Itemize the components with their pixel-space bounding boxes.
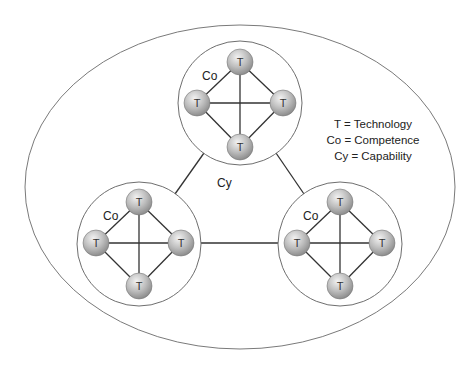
technology-node: T: [284, 230, 310, 256]
svg-text:T: T: [379, 237, 386, 249]
svg-text:T: T: [178, 237, 185, 249]
competence-cluster-bottom-right: Co T T T T: [278, 182, 402, 306]
svg-text:T: T: [136, 280, 143, 292]
technology-node: T: [227, 134, 253, 160]
technology-node: T: [83, 230, 109, 256]
competence-cluster-top: Co T T T T: [178, 41, 302, 165]
svg-text:T: T: [237, 141, 244, 153]
link-top-bottomleft: [175, 153, 204, 194]
svg-text:T: T: [136, 196, 143, 208]
competence-cluster-bottom-left: Co T T T T: [77, 182, 201, 306]
svg-text:T: T: [294, 237, 301, 249]
technology-node: T: [327, 189, 353, 215]
link-top-bottomright: [276, 153, 304, 194]
technology-node: T: [327, 273, 353, 299]
technology-node: T: [126, 273, 152, 299]
legend: T = Technology Co = Competence Cy = Capa…: [326, 118, 419, 162]
svg-text:T: T: [93, 237, 100, 249]
competence-label: Co: [103, 209, 119, 223]
competence-label: Co: [202, 69, 218, 83]
legend-technology: T = Technology: [334, 118, 412, 130]
competence-label: Co: [303, 209, 319, 223]
svg-text:T: T: [237, 56, 244, 68]
technology-node: T: [126, 189, 152, 215]
svg-text:T: T: [337, 280, 344, 292]
svg-text:T: T: [280, 97, 287, 109]
legend-capability: Cy = Capability: [334, 150, 412, 162]
technology-node: T: [270, 90, 296, 116]
svg-text:T: T: [337, 196, 344, 208]
technology-node: T: [184, 90, 210, 116]
capability-diagram: Co T T T T Co T T T T Co: [0, 0, 476, 365]
technology-node: T: [227, 49, 253, 75]
svg-text:T: T: [194, 97, 201, 109]
capability-label: Cy: [217, 176, 232, 190]
technology-node: T: [168, 230, 194, 256]
legend-competence: Co = Competence: [326, 134, 419, 146]
technology-node: T: [369, 230, 395, 256]
